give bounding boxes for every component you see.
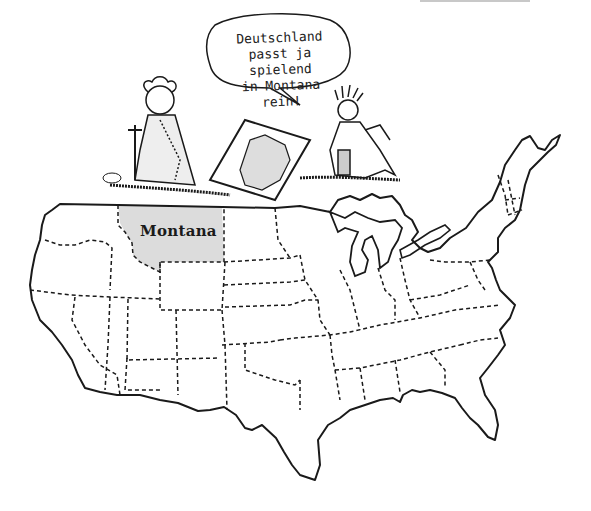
germania-character (128, 77, 195, 185)
speech-line-3: in Montana rein! (218, 76, 344, 112)
cartoon-map-illustration: Deutschland passt ja spielend in Montana… (0, 0, 591, 511)
state-borders (30, 175, 522, 410)
held-germany-map (210, 120, 310, 200)
lake-erie (400, 225, 450, 258)
speech-line-2: passt ja spielend (217, 44, 343, 80)
artist-signature (103, 173, 121, 183)
speech-bubble-text: Deutschland passt ja spielend in Montana… (217, 28, 345, 112)
great-lakes (330, 212, 402, 276)
montana-label: Montana (140, 222, 217, 240)
